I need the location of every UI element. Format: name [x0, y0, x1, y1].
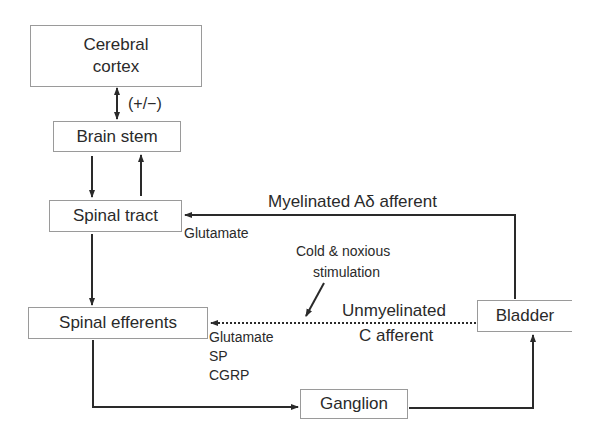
cold-stimulation-line2: stimulation — [313, 264, 380, 281]
neurotransmitter-sp: SP — [209, 348, 228, 365]
myelinated-afferent-label: Myelinated Aδ afferent — [268, 193, 437, 211]
modulation-label: (+/−) — [128, 95, 162, 113]
node-brain-stem: Brain stem — [53, 121, 181, 152]
neurotransmitter-cgrp: CGRP — [209, 367, 249, 384]
node-bladder: Bladder — [477, 300, 572, 332]
arrow-cold-stimulus — [306, 283, 324, 316]
glutamate-tract-label: Glutamate — [184, 225, 249, 242]
node-ganglion: Ganglion — [300, 389, 408, 419]
brain-stem-label: Brain stem — [76, 126, 157, 148]
node-cerebral-cortex: Cerebral cortex — [30, 25, 202, 87]
cold-stimulation-line1: Cold & noxious — [296, 243, 390, 260]
spinal-efferents-label: Spinal efferents — [59, 312, 177, 334]
node-spinal-tract: Spinal tract — [49, 200, 182, 232]
arrow-efferents-ganglion — [93, 340, 298, 407]
arrow-ganglion-bladder — [409, 335, 533, 408]
neurotransmitter-glutamate: Glutamate — [209, 329, 274, 346]
cerebral-cortex-line1: Cerebral — [83, 34, 148, 56]
unmyelinated-line1: Unmyelinated — [342, 302, 446, 320]
ganglion-label: Ganglion — [320, 393, 388, 415]
unmyelinated-line2: C afferent — [359, 327, 433, 345]
cerebral-cortex-line2: cortex — [93, 56, 139, 78]
node-spinal-efferents: Spinal efferents — [28, 307, 208, 339]
spinal-tract-label: Spinal tract — [73, 205, 158, 227]
bladder-label: Bladder — [496, 305, 555, 327]
